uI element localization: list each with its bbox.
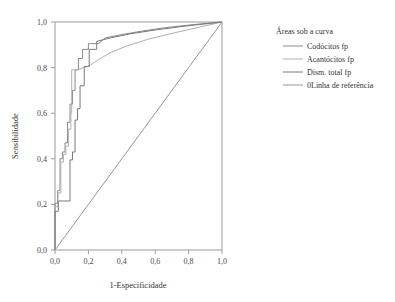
roc-curve xyxy=(55,22,222,250)
legend-item-label: 0Linha de referência xyxy=(307,81,374,90)
y-axis-title: Sensibilidade xyxy=(10,113,20,159)
x-axis-tick-labels: 0,00,20,40,60,81,0 xyxy=(50,257,227,266)
legend-item-label: Acantócitos fp xyxy=(307,55,354,64)
roc-plot-svg: 0,00,20,40,60,81,0 0,00,20,40,60,81,0 1-… xyxy=(0,0,395,302)
y-tick-label: 0,6 xyxy=(37,109,47,118)
y-tick-label: 1,0 xyxy=(37,18,47,27)
legend-item-label: Dism. total fp xyxy=(307,68,351,77)
x-tick-label: 0,8 xyxy=(184,257,194,266)
legend-item-label: Codócitos fp xyxy=(307,42,348,51)
y-axis-tick-labels: 0,00,20,40,60,81,0 xyxy=(37,18,47,255)
x-tick-label: 0,0 xyxy=(50,257,60,266)
roc-chart-figure: 0,00,20,40,60,81,0 0,00,20,40,60,81,0 1-… xyxy=(0,0,395,302)
y-tick-label: 0,4 xyxy=(37,155,47,164)
legend: Áreas sob a curva Codócitos fpAcantócito… xyxy=(276,26,374,90)
x-tick-label: 1,0 xyxy=(217,257,227,266)
y-tick-label: 0,8 xyxy=(37,64,47,73)
x-axis-title: 1-Especificidade xyxy=(109,280,166,290)
legend-items-group: Codócitos fpAcantócitos fpDism. total fp… xyxy=(283,42,374,90)
y-tick-label: 0,2 xyxy=(37,200,47,209)
y-axis-ticks xyxy=(51,22,55,250)
x-axis-ticks xyxy=(55,250,222,254)
y-tick-label: 0,0 xyxy=(37,246,47,255)
x-tick-label: 0,2 xyxy=(83,257,93,266)
legend-title: Áreas sob a curva xyxy=(276,26,334,36)
x-tick-label: 0,6 xyxy=(150,257,160,266)
roc-curves-group xyxy=(55,22,222,250)
x-tick-label: 0,4 xyxy=(117,257,127,266)
